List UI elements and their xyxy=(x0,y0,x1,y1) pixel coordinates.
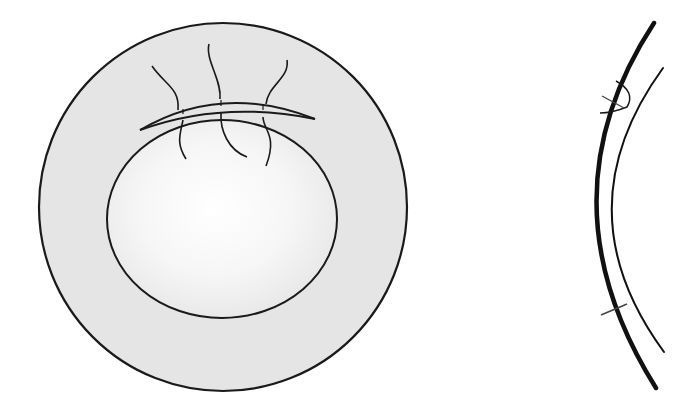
front-view-panel xyxy=(39,23,407,391)
inner-circle xyxy=(107,120,337,318)
outer-layer-thick xyxy=(596,23,656,388)
diagram-canvas xyxy=(0,0,700,407)
cross-section-panel xyxy=(596,23,664,388)
inner-layer-thin xyxy=(612,68,664,352)
